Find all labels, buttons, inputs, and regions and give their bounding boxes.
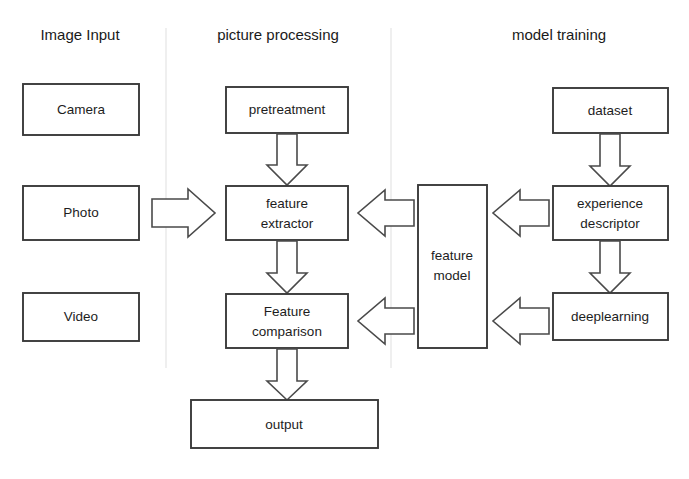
node-feature-extractor[interactable]: feature extractor [226,186,348,240]
experience-descriptor-box [553,186,668,240]
experience-descriptor-label-line2: descriptor [580,216,640,231]
diagram-root: Image Input picture processing model tra… [0,0,689,479]
feature-model-label-line2: model [434,268,471,283]
feature-extractor-box [226,186,348,240]
arrow-feature-model-to-feature-comparison [358,298,414,344]
output-label: output [265,417,303,432]
feature-extractor-label-line2: extractor [261,216,314,231]
feature-comparison-label-line1: Feature [264,304,311,319]
photo-label: Photo [63,205,98,220]
node-output[interactable]: output [191,400,378,448]
node-dataset[interactable]: dataset [553,88,668,133]
arrow-pretreatment-to-feature-extractor [267,134,307,185]
arrow-experience-descriptor-to-feature-model [493,190,549,236]
deeplearning-label: deeplearning [571,309,649,324]
block-diagram-canvas: Image Input picture processing model tra… [0,0,689,479]
column-header-model-training: model training [512,26,606,43]
video-label: Video [64,309,98,324]
dataset-label: dataset [588,103,633,118]
arrow-experience-descriptor-to-deeplearning [590,241,630,293]
feature-comparison-box [226,294,348,348]
arrow-photo-to-feature-extractor [152,189,215,237]
column-header-image-input: Image Input [40,26,120,43]
arrow-feature-model-to-feature-extractor [358,190,414,236]
node-pretreatment[interactable]: pretreatment [226,87,348,133]
experience-descriptor-label-line1: experience [577,196,643,211]
pretreatment-label: pretreatment [249,102,326,117]
node-experience-descriptor[interactable]: experience descriptor [553,186,668,240]
node-feature-model[interactable]: feature model [418,185,487,348]
arrow-feature-extractor-to-feature-comparison [267,241,307,293]
feature-model-label-line1: feature [431,248,473,263]
camera-label: Camera [57,102,106,117]
feature-extractor-label-line1: feature [266,196,308,211]
node-video[interactable]: Video [23,293,139,341]
node-deeplearning[interactable]: deeplearning [553,293,668,340]
node-feature-comparison[interactable]: Feature comparison [226,294,348,348]
arrow-deeplearning-to-feature-model [493,298,549,344]
feature-model-box [418,185,487,348]
feature-comparison-label-line2: comparison [252,324,322,339]
node-photo[interactable]: Photo [23,186,139,240]
arrow-feature-comparison-to-output [267,349,307,400]
node-camera[interactable]: Camera [23,84,139,135]
arrow-dataset-to-experience-descriptor [590,134,630,186]
column-header-picture-processing: picture processing [217,26,339,43]
